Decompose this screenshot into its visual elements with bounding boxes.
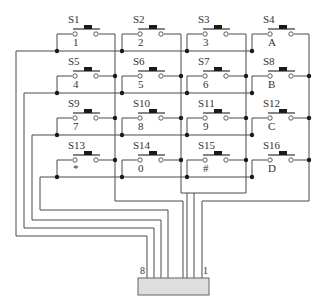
switch-contact-right xyxy=(94,158,98,162)
switch-s15: S15# xyxy=(185,139,248,179)
switch-key-label: # xyxy=(203,162,209,174)
switch-key-label: * xyxy=(73,162,79,174)
switch-s11: S119 xyxy=(185,97,248,137)
switch-contact-right xyxy=(94,116,98,120)
column-junction-dot xyxy=(244,158,248,162)
switch-contact-right xyxy=(289,116,293,120)
switch-id-label: S7 xyxy=(198,55,210,67)
row-junction-dot xyxy=(250,133,254,137)
switch-contact-right xyxy=(289,74,293,78)
switch-s5: S54 xyxy=(55,55,117,95)
switch-s1: S11 xyxy=(55,13,115,53)
switch-contact-right xyxy=(224,74,228,78)
switch-s8: S8B xyxy=(250,55,311,95)
row-3-route xyxy=(32,135,161,278)
switch-contact-right xyxy=(159,158,163,162)
switch-button-cap-icon xyxy=(279,67,287,71)
column-4-route xyxy=(202,201,309,278)
switch-id-label: S11 xyxy=(198,97,215,109)
switch-key-label: 2 xyxy=(138,36,144,48)
switch-button-cap-icon xyxy=(149,151,157,155)
row-junction-dot xyxy=(55,49,59,53)
row-junction-dot xyxy=(120,91,124,95)
switch-key-label: D xyxy=(268,162,276,174)
switch-id-label: S12 xyxy=(263,97,280,109)
switch-key-label: B xyxy=(268,78,275,90)
row-junction-dot xyxy=(185,133,189,137)
switch-left-lead xyxy=(252,76,267,93)
switch-s7: S76 xyxy=(185,55,248,95)
switch-contact-right xyxy=(224,32,228,36)
switch-button-cap-icon xyxy=(279,109,287,113)
row-junction-dot xyxy=(185,49,189,53)
switch-contact-right xyxy=(94,74,98,78)
switch-id-label: S9 xyxy=(68,97,80,109)
switch-left-lead xyxy=(57,76,72,93)
switch-left-lead xyxy=(187,76,202,93)
switch-s3: S33 xyxy=(185,13,246,53)
switch-s12: S12C xyxy=(250,97,311,137)
switch-left-lead xyxy=(187,118,202,135)
row-junction-dot xyxy=(185,91,189,95)
connector-body xyxy=(138,278,209,295)
switch-contact-right xyxy=(224,116,228,120)
switch-button-cap-icon xyxy=(149,25,157,29)
switch-contact-right xyxy=(94,32,98,36)
switch-id-label: S15 xyxy=(198,139,216,151)
connector-header: 8 1 xyxy=(138,265,209,295)
switch-key-label: 6 xyxy=(203,78,209,90)
switch-button-cap-icon xyxy=(149,109,157,113)
switch-s2: S22 xyxy=(120,13,181,53)
switch-button-cap-icon xyxy=(84,109,92,113)
switch-s10: S108 xyxy=(120,97,183,137)
row-2-route xyxy=(24,93,154,278)
row-junction-dot xyxy=(185,175,189,179)
switch-left-lead xyxy=(187,160,202,177)
switch-key-label: C xyxy=(268,120,275,132)
keypad-circuit-diagram: S11S22S33S4AS54S65S76S8BS97S108S119S12CS… xyxy=(0,0,320,304)
switch-contact-right xyxy=(159,32,163,36)
pin-1-label: 1 xyxy=(203,265,208,276)
switch-s14: S140 xyxy=(120,139,183,179)
switch-contact-right xyxy=(224,158,228,162)
switch-key-label: A xyxy=(268,36,276,48)
column-junction-dot xyxy=(113,158,117,162)
column-junction-dot xyxy=(113,74,117,78)
row-junction-dot xyxy=(55,175,59,179)
column-junction-dot xyxy=(244,116,248,120)
row-junction-dot xyxy=(250,91,254,95)
switch-button-cap-icon xyxy=(149,67,157,71)
switch-left-lead xyxy=(252,34,267,51)
column-junction-dot xyxy=(307,158,311,162)
switch-button-cap-icon xyxy=(214,151,222,155)
switch-left-lead xyxy=(57,34,72,51)
switch-key-label: 1 xyxy=(73,36,79,48)
column-junction-dot xyxy=(307,116,311,120)
switch-s6: S65 xyxy=(120,55,183,95)
switch-id-label: S10 xyxy=(133,97,151,109)
switch-key-label: 9 xyxy=(203,120,209,132)
row-junction-dot xyxy=(55,91,59,95)
switch-id-label: S6 xyxy=(133,55,145,67)
switch-id-label: S16 xyxy=(263,139,281,151)
row-junction-dot xyxy=(120,175,124,179)
switch-key-label: 4 xyxy=(73,78,79,90)
switch-s16: S16D xyxy=(250,139,311,179)
switch-s13: S13* xyxy=(55,139,117,179)
row-junction-dot xyxy=(120,133,124,137)
switch-id-label: S8 xyxy=(263,55,275,67)
switch-s9: S97 xyxy=(55,97,117,137)
row-junction-dot xyxy=(55,133,59,137)
switch-left-lead xyxy=(122,118,137,135)
row-junction-dot xyxy=(250,175,254,179)
row-1-route xyxy=(16,51,147,278)
column-junction-dot xyxy=(244,74,248,78)
row-junction-dot xyxy=(250,49,254,53)
row-junction-dot xyxy=(120,49,124,53)
switch-id-label: S1 xyxy=(68,13,80,25)
switch-button-cap-icon xyxy=(84,25,92,29)
column-junction-dot xyxy=(179,74,183,78)
switch-id-label: S4 xyxy=(263,13,275,25)
switch-contact-right xyxy=(159,74,163,78)
switch-s4: S4A xyxy=(250,13,309,53)
